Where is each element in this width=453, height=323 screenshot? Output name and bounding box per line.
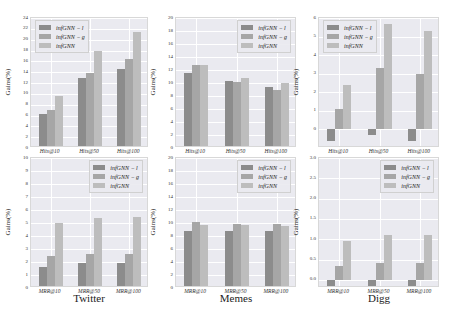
bar-infGNN-l-hits-at-10 xyxy=(327,129,335,140)
legend-swatch xyxy=(327,34,339,39)
y-tick-label: 4 xyxy=(159,119,173,124)
y-tick-label: 18 xyxy=(159,168,173,173)
bar-infGNN-l-mrr-at-50 xyxy=(78,263,86,287)
y-tick-label: 2.5 xyxy=(302,175,316,180)
legend-item: infGNN xyxy=(241,41,287,50)
legend: infGNN − linfGNN − ginfGNN xyxy=(237,160,291,193)
y-tick-label: 2 xyxy=(14,259,28,264)
y-tick-label: 4 xyxy=(14,123,28,128)
y-tick-label: 1 xyxy=(14,272,28,277)
x-tick-label: Hits@100 xyxy=(256,148,296,154)
bar-infGNN-mrr-at-100 xyxy=(281,226,289,287)
bar-infGNN-l-mrr-at-10 xyxy=(184,231,192,287)
legend-label: infGNN − l xyxy=(401,165,428,171)
y-tick-label: 16 xyxy=(14,58,28,63)
legend-label: infGNN − l xyxy=(344,25,371,31)
y-tick-label: 8 xyxy=(14,101,28,106)
legend: infGNN − linfGNN − ginfGNN xyxy=(380,160,434,193)
legend-label: infGNN xyxy=(110,183,129,189)
y-tick-label: 3 xyxy=(302,70,316,75)
bar-infGNN-mrr-at-10 xyxy=(55,223,63,287)
plot-area-twitter-hits: infGNN − linfGNN − ginfGNN xyxy=(30,17,148,147)
y-tick-label: 20 xyxy=(159,15,173,20)
legend-swatch xyxy=(327,43,339,48)
y-tick-label: 2.0 xyxy=(302,195,316,200)
legend-item: infGNN xyxy=(39,41,85,50)
y-tick-label: 5 xyxy=(14,220,28,225)
legend-swatch xyxy=(39,43,51,48)
legend-item: infGNN xyxy=(241,181,287,190)
y-tick-label: 8 xyxy=(159,233,173,238)
bar-infGNN-g-hits-at-10 xyxy=(335,109,343,129)
bar-infGNN-mrr-at-10 xyxy=(343,241,351,280)
y-tick-label: 14 xyxy=(159,194,173,199)
bar-infGNN-g-mrr-at-100 xyxy=(273,224,281,287)
y-tick-label: 0.0 xyxy=(302,276,316,281)
legend-swatch xyxy=(241,34,253,39)
bar-infGNN-hits-at-100 xyxy=(424,31,432,129)
bar-infGNN-hits-at-50 xyxy=(241,78,249,147)
y-tick-label: 2 xyxy=(14,134,28,139)
legend-swatch xyxy=(241,25,253,30)
bar-infGNN-g-hits-at-50 xyxy=(86,73,94,147)
x-tick-label: Hits@10 xyxy=(30,148,70,154)
y-tick-label: 0 xyxy=(302,126,316,131)
legend-swatch xyxy=(241,165,253,170)
y-tick-label: 2 xyxy=(302,89,316,94)
legend-swatch xyxy=(93,165,105,170)
plot-area-digg-hits: infGNN − linfGNN − ginfGNN xyxy=(318,17,439,147)
legend-swatch xyxy=(384,165,396,170)
y-tick-label: 20 xyxy=(14,36,28,41)
y-tick-label: 3.0 xyxy=(302,155,316,160)
bar-infGNN-l-hits-at-50 xyxy=(78,78,86,147)
bar-infGNN-l-hits-at-100 xyxy=(265,87,273,147)
legend-item: infGNN − l xyxy=(327,23,373,32)
y-tick-label: 6 xyxy=(14,207,28,212)
bar-infGNN-hits-at-50 xyxy=(384,24,392,130)
bar-infGNN-g-mrr-at-10 xyxy=(47,256,55,287)
y-tick-label: 2 xyxy=(159,272,173,277)
bar-infGNN-g-mrr-at-100 xyxy=(125,254,133,287)
bar-infGNN-g-hits-at-50 xyxy=(376,68,384,129)
bar-infGNN-mrr-at-50 xyxy=(384,235,392,280)
bar-infGNN-mrr-at-10 xyxy=(200,225,208,287)
y-axis-label: Gains(%) xyxy=(292,62,300,102)
y-tick-label: 1.0 xyxy=(302,236,316,241)
y-tick-label: 8 xyxy=(159,93,173,98)
legend-label: infGNN xyxy=(401,183,420,189)
legend-label: infGNN − g xyxy=(401,174,430,180)
bar-infGNN-g-mrr-at-50 xyxy=(376,263,384,280)
bar-infGNN-l-mrr-at-100 xyxy=(265,231,273,287)
y-tick-label: 0.5 xyxy=(302,256,316,261)
y-tick-label: 2 xyxy=(159,132,173,137)
y-tick-label: 0 xyxy=(159,145,173,150)
legend-item: infGNN − g xyxy=(384,172,430,181)
y-tick-label: 3 xyxy=(14,246,28,251)
y-axis-label: Gains(%) xyxy=(292,202,300,242)
legend-label: infGNN xyxy=(258,183,277,189)
y-axis-label: Gains(%) xyxy=(149,202,157,242)
legend: infGNN − linfGNN − ginfGNN xyxy=(89,160,143,193)
dataset-title-twitter: Twitter xyxy=(39,292,139,304)
legend-item: infGNN xyxy=(327,41,373,50)
legend-swatch xyxy=(39,34,51,39)
y-tick-label: 16 xyxy=(159,41,173,46)
dataset-title-digg: Digg xyxy=(329,292,429,304)
legend-swatch xyxy=(93,174,105,179)
bar-infGNN-l-mrr-at-50 xyxy=(225,231,233,287)
y-tick-label: 0 xyxy=(14,145,28,150)
legend-item: infGNN − g xyxy=(93,172,139,181)
bar-infGNN-hits-at-10 xyxy=(343,85,351,130)
bar-infGNN-l-hits-at-10 xyxy=(184,73,192,147)
y-tick-label: 12 xyxy=(159,67,173,72)
legend-label: infGNN − g xyxy=(258,34,287,40)
bar-infGNN-g-mrr-at-50 xyxy=(233,224,241,287)
bar-infGNN-hits-at-10 xyxy=(200,65,208,147)
legend-item: infGNN − g xyxy=(241,172,287,181)
legend-swatch xyxy=(93,183,105,188)
bar-infGNN-g-hits-at-10 xyxy=(47,110,55,147)
bar-infGNN-mrr-at-50 xyxy=(241,225,249,287)
legend-label: infGNN xyxy=(56,43,75,49)
bar-infGNN-mrr-at-100 xyxy=(133,217,141,287)
bar-infGNN-g-hits-at-10 xyxy=(192,65,200,147)
